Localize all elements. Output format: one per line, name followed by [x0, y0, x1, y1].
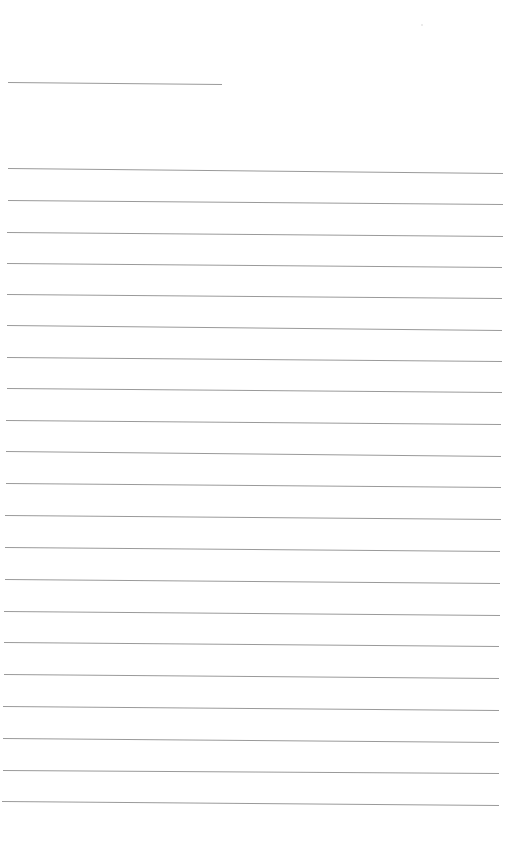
ruled-line [5, 548, 500, 552]
ruled-line [7, 295, 502, 299]
ruled-line [4, 643, 499, 647]
ruled-line [6, 484, 501, 488]
ruled-line [7, 389, 502, 393]
ruled-line [6, 421, 501, 425]
ruled-line [7, 326, 502, 331]
ruled-line [8, 201, 503, 205]
ruled-line [6, 452, 501, 457]
ruled-line [7, 264, 502, 268]
scan-speck [421, 24, 423, 26]
ruled-line [4, 612, 500, 616]
ruled-line [3, 707, 499, 711]
ruled-line [7, 233, 503, 237]
ruled-line [3, 771, 499, 774]
ruled-lines-group [2, 169, 503, 806]
ruled-line [2, 802, 499, 806]
ruled-line [3, 739, 499, 743]
header-line [8, 83, 222, 85]
ruled-line [7, 358, 502, 362]
ruled-line [8, 169, 503, 174]
ruled-line [4, 675, 499, 679]
lined-paper-page [0, 0, 529, 847]
ruled-line [5, 580, 500, 584]
ruled-line [5, 516, 501, 520]
ruled-lines-canvas [0, 0, 529, 847]
